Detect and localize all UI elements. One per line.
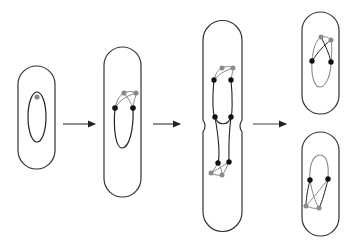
cell-stage-3 — [203, 21, 242, 232]
daughter-cell-top — [302, 12, 339, 114]
cell-stage-1 — [18, 66, 55, 169]
daughter-cell-bottom — [302, 132, 339, 236]
origin-marker — [34, 94, 39, 99]
replication-diagram — [0, 0, 358, 251]
cell-stage-2 — [104, 47, 141, 197]
